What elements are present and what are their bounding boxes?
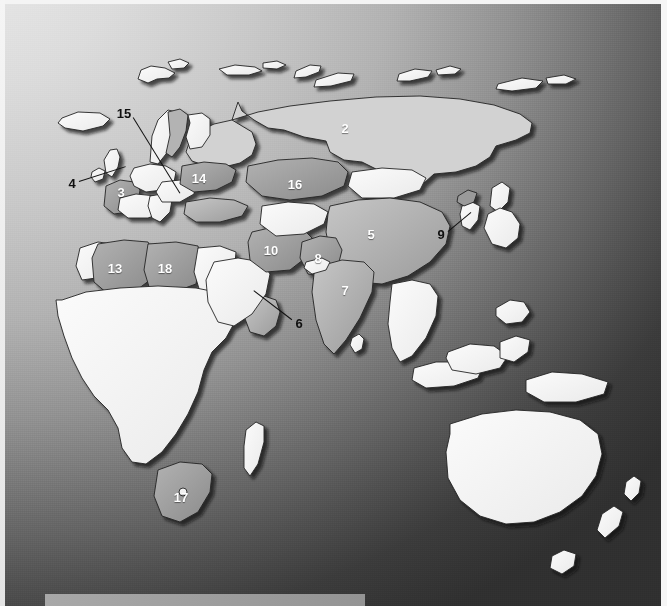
- map-label-sweden: 15: [117, 107, 131, 120]
- map-label-china: 5: [367, 228, 374, 241]
- leader-line-4: [79, 166, 126, 182]
- map-label-india: 7: [341, 284, 348, 297]
- map-label-united-kingdom-ireland: 4: [68, 177, 75, 190]
- map-label-south-africa: 17: [174, 491, 188, 504]
- map-label-layer: 2345678910131415161718: [0, 0, 667, 606]
- map-label-algeria: 13: [108, 262, 122, 275]
- map-label-libya: 18: [158, 262, 172, 275]
- leader-line-9: [448, 212, 472, 232]
- map-label-gulf-states: 6: [295, 317, 302, 330]
- caption-bar: [45, 594, 365, 606]
- map-label-russia: 2: [341, 122, 348, 135]
- map-label-south-korea: 9: [437, 228, 444, 241]
- figure-edge-right: [661, 0, 667, 606]
- figure-edge-top: [0, 0, 667, 4]
- map-label-ukraine: 14: [192, 172, 206, 185]
- leader-line-6: [254, 290, 293, 320]
- map-label-france: 3: [117, 186, 124, 199]
- leader-line-15: [132, 117, 180, 194]
- map-label-pakistan: 8: [314, 252, 321, 265]
- map-label-iran: 10: [264, 244, 278, 257]
- figure-edge-left: [0, 0, 5, 606]
- map-label-kazakhstan: 16: [288, 178, 302, 191]
- map-figure: 2345678910131415161718: [0, 0, 667, 606]
